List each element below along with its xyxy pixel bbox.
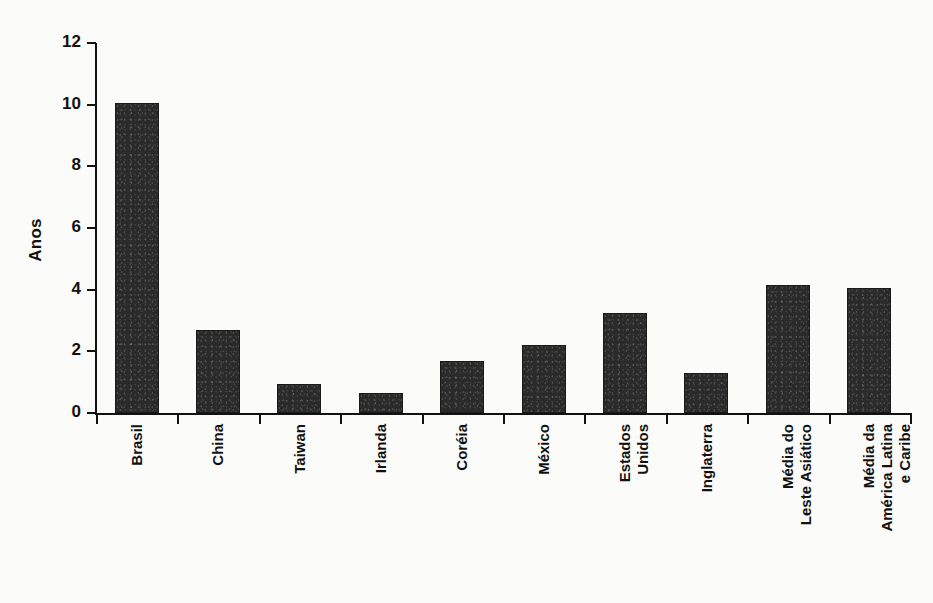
y-axis-tick: 4 xyxy=(87,289,96,291)
x-axis-category-label: Estados Unidos xyxy=(616,424,652,594)
bar[interactable] xyxy=(522,345,566,413)
bar-slot xyxy=(96,43,177,413)
x-axis-category-label: Média do Leste Asiático xyxy=(779,424,815,594)
bar-slot xyxy=(340,43,421,413)
x-axis-category-label: Média da América Latina e Caribe xyxy=(860,424,914,594)
bar-slot xyxy=(666,43,747,413)
y-axis-tick-label: 12 xyxy=(62,32,81,52)
x-axis-category-label: Inglaterra xyxy=(698,424,716,594)
y-axis-tick-label: 6 xyxy=(72,217,81,237)
bar[interactable] xyxy=(277,384,321,413)
bar[interactable] xyxy=(196,330,240,413)
x-axis-tick xyxy=(910,413,912,424)
x-axis-category-label: Brasil xyxy=(128,424,146,594)
bar-slot xyxy=(503,43,584,413)
y-axis-tick: 10 xyxy=(87,104,96,106)
x-axis-tick xyxy=(584,413,586,424)
y-axis-tick: 0 xyxy=(87,412,96,414)
bar-slot xyxy=(422,43,503,413)
y-axis-tick: 6 xyxy=(87,227,96,229)
bar[interactable] xyxy=(684,373,728,413)
bar-slot xyxy=(259,43,340,413)
x-axis-tick xyxy=(829,413,831,424)
x-axis-category-label: China xyxy=(209,424,227,594)
y-axis-tick-label: 4 xyxy=(72,279,81,299)
y-axis-tick-label: 2 xyxy=(72,340,81,360)
y-axis-tick-label: 0 xyxy=(72,402,81,422)
bar[interactable] xyxy=(115,103,159,413)
x-axis-tick xyxy=(503,413,505,424)
y-axis-tick: 8 xyxy=(87,165,96,167)
x-axis-tick xyxy=(747,413,749,424)
y-axis-tick-label: 10 xyxy=(62,94,81,114)
x-axis-category-label: México xyxy=(535,424,553,594)
plot-area xyxy=(96,43,910,413)
x-axis-tick xyxy=(96,413,98,424)
x-axis-tick xyxy=(666,413,668,424)
bar[interactable] xyxy=(359,393,403,413)
y-axis-tick-label: 8 xyxy=(72,155,81,175)
x-axis-tick xyxy=(422,413,424,424)
bar-slot xyxy=(177,43,258,413)
y-axis-tick: 12 xyxy=(87,42,96,44)
x-axis-category-labels: BrasilChinaTaiwanIrlandaCoréiaMéxicoEsta… xyxy=(96,424,910,599)
bar-chart: Anos 121086420 BrasilChinaTaiwanIrlandaC… xyxy=(0,0,933,603)
x-axis-tick xyxy=(177,413,179,424)
bar[interactable] xyxy=(847,288,891,413)
bar[interactable] xyxy=(440,361,484,413)
bar[interactable] xyxy=(603,313,647,413)
x-axis-tick xyxy=(259,413,261,424)
bar-slot xyxy=(584,43,665,413)
y-axis-tick: 2 xyxy=(87,350,96,352)
bar-slot xyxy=(829,43,910,413)
bar-slot xyxy=(747,43,828,413)
x-axis-tick xyxy=(340,413,342,424)
x-axis-category-label: Irlanda xyxy=(372,424,390,594)
x-axis-category-label: Taiwan xyxy=(291,424,309,594)
bar[interactable] xyxy=(766,285,810,413)
y-axis-title: Anos xyxy=(26,185,46,295)
x-axis-category-label: Coréia xyxy=(453,424,471,594)
